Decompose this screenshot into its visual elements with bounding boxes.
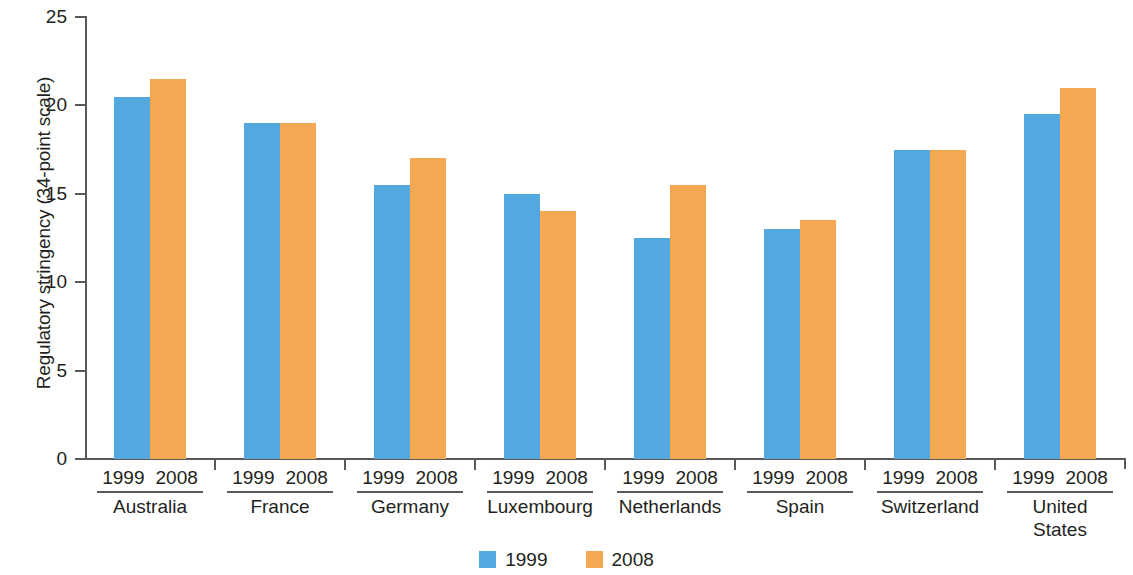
group-year-label: 1999 [1012,467,1054,489]
legend-label: 1999 [505,550,547,569]
bar-luxembourg-1999 [504,194,540,459]
group-country-line: Netherlands [605,495,735,518]
group-year-label: 1999 [362,467,404,489]
bar-netherlands-1999 [634,238,670,459]
bars-layer [0,0,1133,459]
group-country-label: Switzerland [865,495,995,518]
x-axis-group: 19992008Netherlands [605,467,735,518]
group-year-label: 1999 [102,467,144,489]
group-country-line: France [215,495,345,518]
group-year-labels: 19992008 [85,467,215,489]
group-year-label: 1999 [752,467,794,489]
bar-france-1999 [244,123,280,459]
bar-spain-2008 [800,220,836,459]
bar-netherlands-2008 [670,185,706,459]
group-country-label: France [215,495,345,518]
group-year-labels: 19992008 [865,467,995,489]
group-country-label: Australia [85,495,215,518]
x-axis-group: 19992008Germany [345,467,475,518]
group-year-label: 2008 [546,467,588,489]
group-country-line: United [995,495,1125,518]
bar-united-states-2008 [1060,88,1096,459]
x-axis-group: 19992008UnitedStates [995,467,1125,541]
group-underline [747,491,853,493]
group-year-label: 2008 [676,467,718,489]
group-country-label: UnitedStates [995,495,1125,541]
group-year-labels: 19992008 [345,467,475,489]
group-year-label: 2008 [1066,467,1108,489]
bar-switzerland-1999 [894,150,930,459]
group-country-line: Australia [85,495,215,518]
legend-label: 2008 [612,550,654,569]
legend-swatch-icon [586,551,603,568]
group-underline [357,491,463,493]
group-country-line: Switzerland [865,495,995,518]
group-underline [97,491,203,493]
bar-australia-1999 [114,97,150,459]
legend-item-1999: 1999 [479,550,547,569]
chart-legend: 19992008 [0,550,1133,569]
legend-item-2008: 2008 [586,550,654,569]
group-year-labels: 19992008 [735,467,865,489]
group-year-labels: 19992008 [215,467,345,489]
bar-luxembourg-2008 [540,211,576,459]
x-axis-group: 19992008Switzerland [865,467,995,518]
group-underline [227,491,333,493]
group-country-label: Germany [345,495,475,518]
group-underline [617,491,723,493]
group-year-label: 1999 [882,467,924,489]
bar-germany-2008 [410,158,446,459]
group-year-label: 2008 [806,467,848,489]
group-underline [877,491,983,493]
legend-swatch-icon [479,551,496,568]
group-country-line: Germany [345,495,475,518]
x-axis-group: 19992008Luxembourg [475,467,605,518]
group-year-labels: 19992008 [475,467,605,489]
bar-switzerland-2008 [930,150,966,459]
group-year-label: 2008 [286,467,328,489]
group-year-label: 1999 [622,467,664,489]
group-country-label: Netherlands [605,495,735,518]
bar-germany-1999 [374,185,410,459]
group-year-label: 1999 [232,467,274,489]
group-country-line: Luxembourg [475,495,605,518]
group-underline [487,491,593,493]
bar-france-2008 [280,123,316,459]
group-country-label: Luxembourg [475,495,605,518]
group-year-label: 2008 [936,467,978,489]
group-year-labels: 19992008 [605,467,735,489]
group-year-labels: 19992008 [995,467,1125,489]
group-country-line: Spain [735,495,865,518]
group-year-label: 1999 [492,467,534,489]
group-country-label: Spain [735,495,865,518]
x-axis-group: 19992008Australia [85,467,215,518]
bar-chart: Regulatory stringency (34-point scale) 2… [0,0,1133,575]
group-year-label: 2008 [416,467,458,489]
group-year-label: 2008 [156,467,198,489]
x-axis-group: 19992008France [215,467,345,518]
bar-spain-1999 [764,229,800,459]
bar-australia-2008 [150,79,186,459]
bar-united-states-1999 [1024,114,1060,459]
group-country-line: States [995,518,1125,541]
group-underline [1007,491,1113,493]
x-axis-group: 19992008Spain [735,467,865,518]
